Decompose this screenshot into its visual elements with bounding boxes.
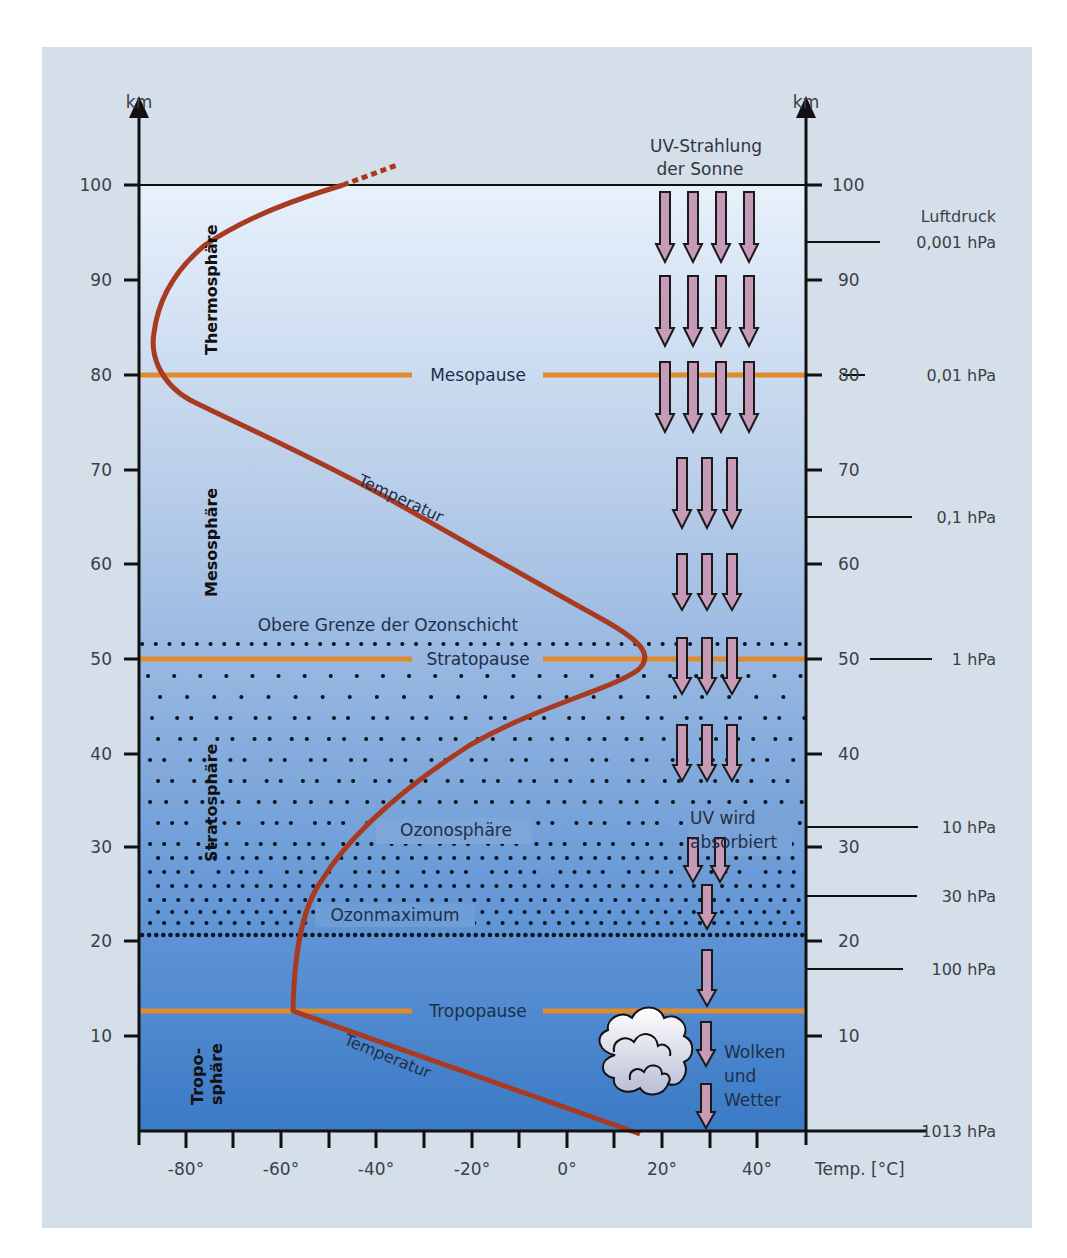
bottom-ticks bbox=[186, 1131, 757, 1148]
x-axis-title: Temp. [°C] bbox=[814, 1159, 905, 1179]
svg-text:100 hPa: 100 hPa bbox=[932, 960, 997, 979]
ozone-max-label: Ozonmaximum bbox=[330, 905, 459, 925]
atmosphere-diagram: km km 10 20 30 40 50 60 70 80 90 100 10 … bbox=[0, 0, 1067, 1258]
svg-text:1013 hPa: 1013 hPa bbox=[921, 1122, 996, 1141]
svg-text:80: 80 bbox=[90, 365, 112, 385]
stratopause-label: Stratopause bbox=[426, 649, 529, 669]
pressure-level-lines bbox=[806, 242, 932, 969]
svg-text:50: 50 bbox=[90, 649, 112, 669]
pressure-title: Luftdruck bbox=[921, 207, 997, 226]
bottom-tick-labels: -80° -60° -40° -20° 0° 20° 40° bbox=[168, 1159, 772, 1179]
weather-line1: Wolken bbox=[724, 1042, 785, 1062]
svg-text:20: 20 bbox=[90, 931, 112, 951]
svg-text:-20°: -20° bbox=[454, 1159, 490, 1179]
right-tick-labels: 10 20 30 40 50 60 70 80 90 100 bbox=[832, 175, 864, 1046]
svg-text:30: 30 bbox=[90, 837, 112, 857]
svg-text:20: 20 bbox=[838, 931, 860, 951]
svg-text:10 hPa: 10 hPa bbox=[942, 818, 996, 837]
svg-text:80: 80 bbox=[838, 365, 860, 385]
svg-text:0°: 0° bbox=[557, 1159, 576, 1179]
svg-text:100: 100 bbox=[832, 175, 864, 195]
right-ticks bbox=[806, 185, 822, 1036]
temperature-curve-extrapolated bbox=[343, 165, 397, 185]
svg-text:10: 10 bbox=[838, 1026, 860, 1046]
left-tick-labels: 10 20 30 40 50 60 70 80 90 100 bbox=[80, 175, 112, 1046]
right-axis-unit: km bbox=[793, 92, 819, 112]
svg-text:-40°: -40° bbox=[358, 1159, 394, 1179]
svg-text:90: 90 bbox=[90, 270, 112, 290]
stratosphere-label: Stratosphäre bbox=[202, 743, 221, 862]
uv-title-line1: UV-Strahlung bbox=[650, 136, 762, 156]
svg-text:-80°: -80° bbox=[168, 1159, 204, 1179]
svg-text:0,001 hPa: 0,001 hPa bbox=[916, 233, 996, 252]
weather-line3: Wetter bbox=[724, 1090, 781, 1110]
svg-text:30 hPa: 30 hPa bbox=[942, 887, 996, 906]
svg-text:1 hPa: 1 hPa bbox=[952, 650, 996, 669]
svg-text:70: 70 bbox=[90, 460, 112, 480]
ozone-upper-boundary-label: Obere Grenze der Ozonschicht bbox=[258, 615, 519, 635]
svg-text:10: 10 bbox=[90, 1026, 112, 1046]
uv-absorbed-line2: absorbiert bbox=[690, 832, 777, 852]
left-axis-unit: km bbox=[126, 92, 152, 112]
svg-text:60: 60 bbox=[838, 554, 860, 574]
left-ticks bbox=[124, 185, 139, 1036]
svg-text:70: 70 bbox=[838, 460, 860, 480]
svg-text:0,01 hPa: 0,01 hPa bbox=[926, 366, 996, 385]
svg-text:40: 40 bbox=[90, 744, 112, 764]
svg-text:-60°: -60° bbox=[263, 1159, 299, 1179]
mesopause-label: Mesopause bbox=[430, 365, 526, 385]
tropopause-label: Tropopause bbox=[428, 1001, 526, 1021]
cloud-icon bbox=[600, 1008, 693, 1095]
uv-absorbed-line1: UV wird bbox=[690, 808, 756, 828]
svg-text:50: 50 bbox=[838, 649, 860, 669]
svg-text:30: 30 bbox=[838, 837, 860, 857]
troposphere-label-2: sphäre bbox=[207, 1043, 226, 1105]
weather-line2: und bbox=[724, 1066, 756, 1086]
svg-text:60: 60 bbox=[90, 554, 112, 574]
ozonosphere-label: Ozonosphäre bbox=[400, 820, 512, 840]
svg-text:100: 100 bbox=[80, 175, 112, 195]
mesosphere-label: Mesosphäre bbox=[202, 488, 221, 597]
svg-text:40: 40 bbox=[838, 744, 860, 764]
pressure-labels: Luftdruck 0,001 hPa 0,01 hPa 0,1 hPa 1 h… bbox=[916, 207, 996, 1141]
svg-text:0,1 hPa: 0,1 hPa bbox=[937, 508, 996, 527]
svg-text:40°: 40° bbox=[742, 1159, 772, 1179]
uv-title-line2: der Sonne bbox=[657, 159, 744, 179]
thermosphere-label: Thermosphäre bbox=[202, 224, 221, 355]
svg-text:90: 90 bbox=[838, 270, 860, 290]
svg-text:20°: 20° bbox=[647, 1159, 677, 1179]
troposphere-label-1: Tropo- bbox=[188, 1048, 207, 1105]
